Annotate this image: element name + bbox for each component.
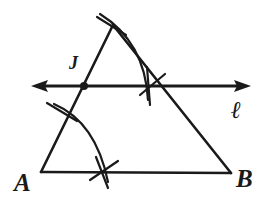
label-line-l: ℓ	[231, 98, 241, 122]
line-l	[31, 80, 251, 92]
arc-centered-at-a	[54, 104, 108, 182]
label-vertex-b: B	[236, 166, 253, 191]
triangle-abc	[41, 25, 231, 173]
segment-cb	[113, 25, 231, 173]
geometry-figure: A B J ℓ	[0, 0, 262, 202]
segment-ac	[41, 25, 113, 172]
tick-at-apex-a	[97, 17, 126, 35]
segment-ab	[41, 172, 231, 173]
figure-canvas	[0, 0, 262, 202]
point-j-dot	[80, 82, 88, 90]
label-point-j: J	[69, 54, 78, 72]
label-vertex-a: A	[14, 170, 31, 195]
